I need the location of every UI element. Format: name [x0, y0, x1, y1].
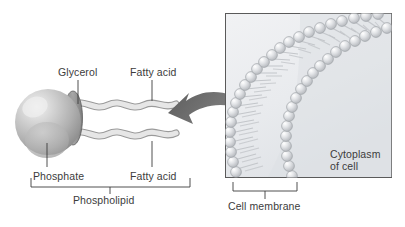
label-cytoplasm: Cytoplasmof cell — [330, 148, 381, 172]
cell-membrane-bracket — [233, 182, 297, 199]
phosphate-head-sphere — [15, 89, 81, 158]
label-cell-membrane: Cell membrane — [228, 200, 301, 212]
label-phospholipid: Phospholipid — [73, 194, 134, 206]
label-cytoplasm-line1: Cytoplasm — [330, 148, 381, 160]
label-phosphate: Phosphate — [33, 170, 84, 182]
label-fatty-acid-top: Fatty acid — [130, 66, 177, 78]
label-cytoplasm-line2: of cell — [330, 160, 358, 172]
zoom-arrow — [168, 92, 232, 124]
label-glycerol: Glycerol — [58, 66, 97, 78]
phospholipid-figure: Glycerol Fatty acid Phosphate Fatty acid… — [0, 0, 405, 227]
fatty-acid-tails — [72, 103, 176, 136]
label-fatty-acid-bottom: Fatty acid — [130, 170, 177, 182]
diagram-graphics — [0, 0, 405, 227]
